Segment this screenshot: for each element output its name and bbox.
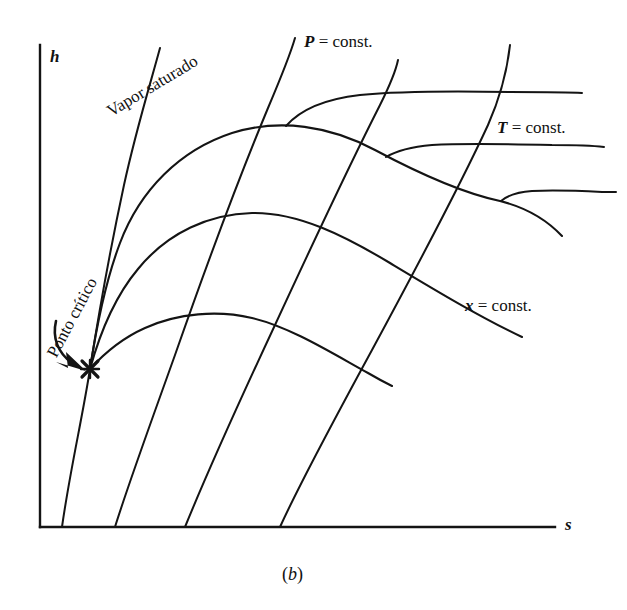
temperature-const-text: = const. [507,118,565,137]
pressure-line-p4 [280,45,510,527]
temperature-line-t2 [386,144,604,157]
quality-line-x1 [90,213,522,369]
figure-caption: (b) [282,565,303,583]
saturation-lines-group [90,125,562,386]
quality-const-text: = const. [474,296,532,315]
pressure-line-p3 [185,60,398,527]
quality-symbol: x [465,296,474,315]
temperature-symbol: T [497,118,507,137]
entropy-axis-label: s [565,516,572,533]
temperature-line-t3 [501,191,616,201]
isotherm-lines-group [286,91,616,201]
temperature-const-label: T = const. [497,119,566,136]
quality-line-x2 [90,314,392,386]
caption-letter: b [288,564,297,584]
pressure-const-text: = const. [314,32,372,51]
pressure-symbol: P [304,32,314,51]
pressure-const-label: P = const. [304,33,373,50]
isobar-lines-group [62,38,510,527]
enthalpy-axis-label: h [50,48,59,65]
diagram-canvas [0,0,627,610]
quality-const-label: x = const. [465,297,532,314]
caption-paren-close: ) [297,564,303,584]
mollier-diagram-figure: h s P = const. T = const. x = const. Vap… [0,0,627,610]
